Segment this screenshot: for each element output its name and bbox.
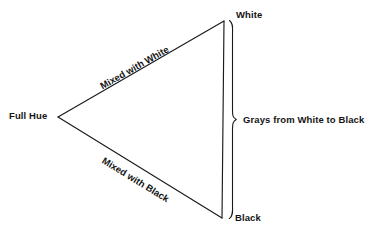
label-white: White <box>236 10 262 20</box>
gray-range-brace-icon <box>229 21 236 219</box>
label-grays-from-white-to-black: Grays from White to Black <box>243 115 364 125</box>
color-triangle-diagram: Full Hue White Black Grays from White to… <box>0 0 376 242</box>
label-full-hue: Full Hue <box>9 111 47 121</box>
edge-mixed-with-black-line <box>58 117 222 218</box>
label-black: Black <box>235 213 261 223</box>
edge-gray-axis-line <box>222 21 224 218</box>
